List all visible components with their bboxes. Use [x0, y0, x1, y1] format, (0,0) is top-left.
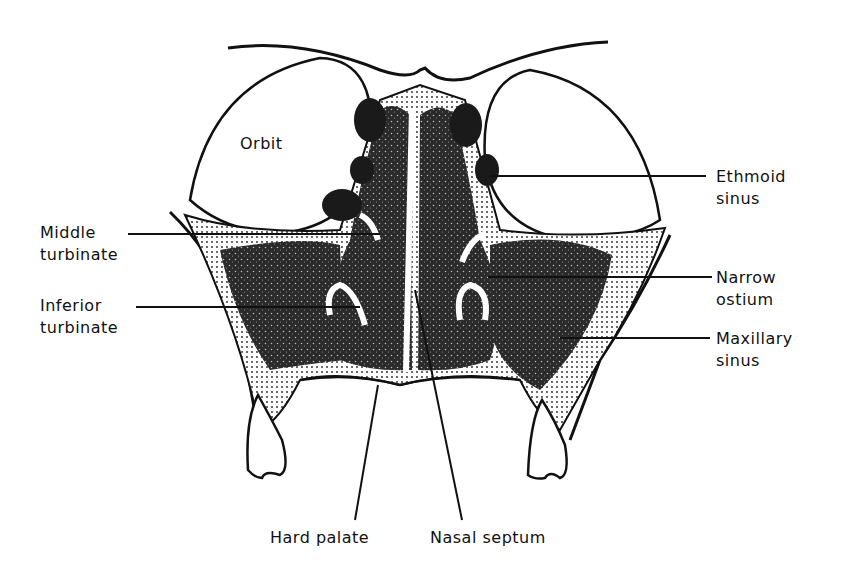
label-middle-turbinate-1: Middle	[40, 222, 96, 244]
label-ethmoid-sinus-1: Ethmoid	[716, 166, 786, 188]
label-inferior-turbinate-1: Inferior	[40, 295, 102, 317]
label-maxillary-sinus-2: sinus	[716, 350, 760, 372]
label-orbit: Orbit	[240, 133, 283, 155]
label-middle-turbinate-2: turbinate	[40, 244, 118, 266]
label-maxillary-sinus-1: Maxillary	[716, 328, 793, 350]
label-narrow-ostium-1: Narrow	[716, 267, 776, 289]
label-hard-palate: Hard palate	[270, 527, 369, 549]
label-ethmoid-sinus-2: sinus	[716, 188, 760, 210]
label-narrow-ostium-2: ostium	[716, 289, 774, 311]
label-inferior-turbinate-2: turbinate	[40, 317, 118, 339]
label-nasal-septum: Nasal septum	[430, 527, 546, 549]
teeth	[247, 395, 566, 479]
